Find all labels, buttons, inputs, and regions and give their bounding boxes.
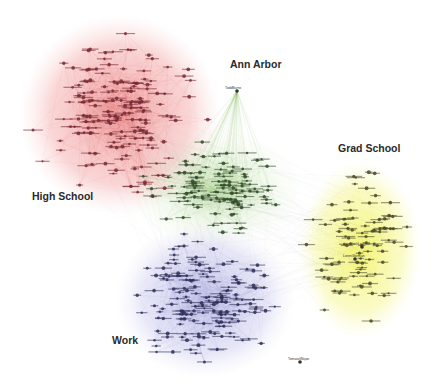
hub-node-label: LorenGlorman (343, 254, 365, 258)
hub-node-label: TomaszWojan (288, 357, 309, 361)
cluster-label-work: Work (112, 334, 138, 346)
cluster-label-high-school: High School (32, 190, 93, 202)
cluster-label-ann-arbor: Ann Arbor (230, 58, 282, 70)
hub-node-label: ToddBurns (225, 86, 242, 90)
cluster-label-grad-school: Grad School (338, 142, 400, 154)
hub-node-label: NoahLesman (350, 242, 370, 246)
